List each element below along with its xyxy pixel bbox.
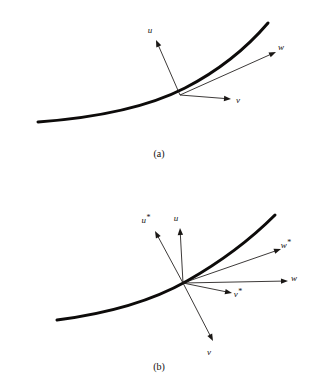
panel-b-vector-w-arrowhead xyxy=(281,278,288,283)
panel-b-vector-u-shaft xyxy=(180,233,183,283)
panel-b-vector-u: u xyxy=(174,213,183,283)
panel-a-vector-v-shaft xyxy=(180,95,226,99)
panel-a-vector-v-label: v xyxy=(236,95,240,105)
star-superscript: * xyxy=(238,287,242,296)
panel-b-vector-v: v xyxy=(183,283,213,357)
panel-a-vector-u: u xyxy=(148,25,180,95)
panel-b-vector-w-star-shaft xyxy=(183,251,276,283)
panel-a: uwv(a) xyxy=(38,23,284,160)
figure-svg: uwv(a)u*uw*wv*v(b) xyxy=(0,0,319,384)
panel-b-vector-v-label: v xyxy=(207,347,211,357)
panel-b-vector-v-star-label: v* xyxy=(234,287,242,299)
panel-a-vector-u-arrowhead xyxy=(156,40,161,47)
panel-a-vector-v: v xyxy=(180,95,240,105)
panel-a-vector-w-label: w xyxy=(278,42,284,52)
panel-a-vector-w-shaft xyxy=(180,54,271,95)
panel-b-vector-u-star-label: u* xyxy=(142,213,151,225)
star-superscript: * xyxy=(146,213,150,222)
panel-b-vector-u-arrowhead xyxy=(178,228,183,235)
panel-b-vector-v-arrowhead xyxy=(207,334,213,341)
panel-b-trajectory-curve xyxy=(57,215,275,320)
panel-a-vector-u-label: u xyxy=(148,25,153,35)
panel-b-vector-v-shaft xyxy=(183,283,210,336)
panel-b-vector-u-star: u* xyxy=(142,213,183,283)
panel-b-vector-u-label: u xyxy=(174,213,179,223)
panel-b-vector-v-star: v* xyxy=(183,283,242,299)
panel-b-vector-w-shaft xyxy=(183,281,283,283)
panel-b: u*uw*wv*v(b) xyxy=(57,213,297,373)
panel-b-vector-v-star-arrowhead xyxy=(225,289,232,294)
panel-a-vector-w: w xyxy=(180,42,284,95)
panel-b-vector-v-star-shaft xyxy=(183,283,227,292)
panel-a-vector-u-shaft xyxy=(158,45,180,95)
panel-a-trajectory-curve xyxy=(38,23,268,122)
star-superscript: * xyxy=(287,238,291,247)
panel-b-vector-u-star-arrowhead xyxy=(155,231,161,238)
panel-b-vector-u-star-shaft xyxy=(158,236,183,283)
figure-container: uwv(a)u*uw*wv*v(b) xyxy=(0,0,319,384)
panel-b-caption: (b) xyxy=(153,361,165,373)
panel-a-caption: (a) xyxy=(153,148,164,160)
panel-b-vector-w-star: w* xyxy=(183,238,291,283)
panel-a-vector-w-arrowhead xyxy=(269,52,276,57)
panel-b-vector-w-star-label: w* xyxy=(281,238,291,250)
panel-b-vector-w-label: w xyxy=(291,273,297,283)
panel-a-vector-v-arrowhead xyxy=(224,96,231,101)
